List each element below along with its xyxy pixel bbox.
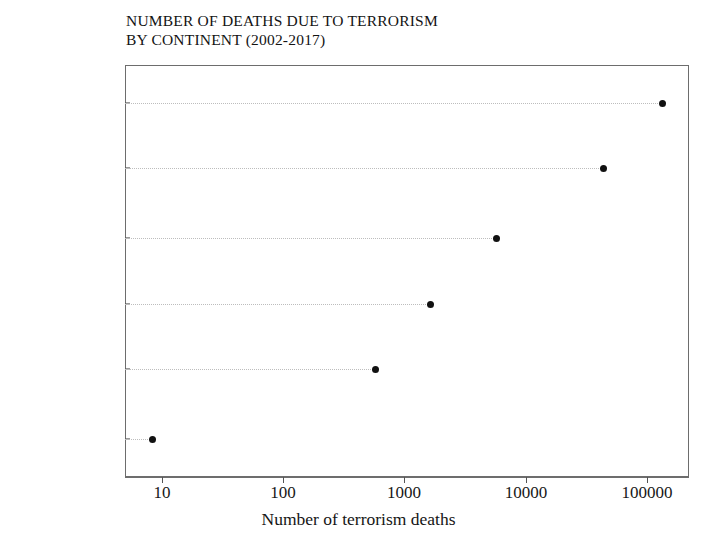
grid-line-oceania (125, 439, 152, 441)
x-tick-label-1000: 1000 (387, 483, 421, 503)
chart-title-line-2: BY CONTINENT (2002-2017) (126, 30, 438, 49)
x-axis-title: Number of terrorism deaths (0, 509, 717, 530)
grid-line-africa (125, 168, 603, 170)
chart-title-line-1: NUMBER OF DEATHS DUE TO TERRORISM (126, 12, 438, 29)
grid-line-europe (125, 238, 496, 240)
x-tick-label-10: 10 (154, 483, 171, 503)
data-point-s-america[interactable] (427, 301, 434, 308)
grid-line-s-america (125, 304, 430, 306)
x-tick-label-100: 100 (270, 483, 296, 503)
grid-line-asia (125, 103, 662, 105)
data-point-oceania[interactable] (149, 436, 156, 443)
data-point-africa[interactable] (600, 165, 607, 172)
x-axis-line (125, 477, 689, 478)
data-point-n-america[interactable] (372, 366, 379, 373)
chart-title: NUMBER OF DEATHS DUE TO TERRORISM BY CON… (126, 11, 438, 49)
x-tick-label-100000: 100000 (622, 483, 673, 503)
data-point-europe[interactable] (493, 235, 500, 242)
y-axis: Asia Africa Europe S. America N. America… (0, 0, 118, 552)
chart-container: NUMBER OF DEATHS DUE TO TERRORISM BY CON… (0, 0, 717, 552)
plot-area (125, 65, 689, 477)
data-point-asia[interactable] (659, 100, 666, 107)
x-tick-label-10000: 10000 (505, 483, 548, 503)
grid-line-n-america (125, 369, 375, 371)
